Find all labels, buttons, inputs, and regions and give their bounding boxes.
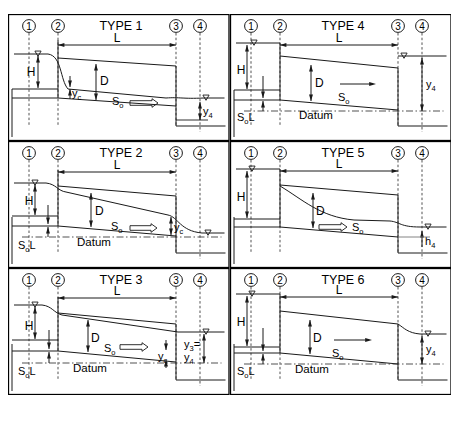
svg-text:H: H — [236, 63, 245, 77]
svg-text:1: 1 — [248, 148, 254, 159]
diagram-type-5: 1234TYPE 5HLDSoh4 — [230, 141, 452, 268]
svg-text:3: 3 — [395, 21, 401, 32]
svg-text:2: 2 — [277, 21, 283, 32]
panel-type-3: 1234TYPE 3HLDSoDatumSoLycy3=y4 — [8, 268, 230, 395]
svg-text:TYPE 2: TYPE 2 — [99, 146, 142, 160]
panel-type-5: 1234TYPE 5HLDSoh4 — [230, 141, 452, 268]
svg-text:4: 4 — [419, 21, 425, 32]
svg-text:D: D — [95, 204, 104, 218]
panel-type-4: 1234TYPE 4HLDSoDatumSoLy4 — [230, 14, 452, 141]
svg-text:2: 2 — [55, 21, 61, 32]
diagram-type-2: 1234TYPE 2HLDSoDatumSoLyc — [8, 141, 230, 268]
svg-text:3: 3 — [395, 275, 401, 286]
svg-text:1: 1 — [26, 21, 32, 32]
diagram-type-1: 1234TYPE 1HLDycSoy4 — [8, 14, 230, 141]
svg-text:TYPE 1: TYPE 1 — [99, 19, 142, 33]
svg-text:Datum: Datum — [77, 236, 111, 248]
svg-text:4: 4 — [197, 275, 203, 286]
svg-text:D: D — [313, 331, 322, 345]
svg-text:1: 1 — [248, 21, 254, 32]
diagram-type-3: 1234TYPE 3HLDSoDatumSoLycy3=y4 — [8, 268, 230, 395]
diagram-type-4: 1234TYPE 4HLDSoDatumSoLy4 — [230, 14, 452, 141]
panel-type-6: 1234TYPE 6HLDSoDatumSoLy4 — [230, 268, 452, 395]
svg-text:D: D — [316, 204, 325, 218]
svg-text:4: 4 — [197, 21, 203, 32]
svg-text:D: D — [100, 74, 109, 88]
svg-text:L: L — [335, 283, 342, 297]
svg-text:4: 4 — [419, 148, 425, 159]
svg-text:H: H — [236, 315, 245, 329]
svg-text:3: 3 — [173, 21, 179, 32]
svg-text:4: 4 — [419, 275, 425, 286]
svg-text:L: L — [114, 158, 121, 172]
svg-text:4: 4 — [197, 148, 203, 159]
panel-type-2: 1234TYPE 2HLDSoDatumSoLyc — [8, 141, 230, 268]
svg-text:TYPE 6: TYPE 6 — [321, 273, 364, 287]
diagram-type-6: 1234TYPE 6HLDSoDatumSoLy4 — [230, 268, 452, 395]
svg-text:2: 2 — [277, 275, 283, 286]
culvert-flow-types-figure: 1234TYPE 1HLDycSoy41234TYPE 4HLDSoDatumS… — [0, 0, 459, 422]
svg-text:H: H — [236, 190, 245, 204]
svg-text:H: H — [25, 194, 34, 208]
svg-text:L: L — [335, 31, 342, 45]
svg-text:3: 3 — [173, 275, 179, 286]
svg-text:H: H — [25, 319, 34, 333]
svg-text:3: 3 — [173, 148, 179, 159]
svg-text:3: 3 — [395, 148, 401, 159]
svg-text:1: 1 — [248, 275, 254, 286]
svg-text:D: D — [315, 76, 324, 90]
svg-text:1: 1 — [26, 275, 32, 286]
panel-grid: 1234TYPE 1HLDycSoy41234TYPE 4HLDSoDatumS… — [8, 14, 451, 395]
svg-text:L: L — [335, 157, 342, 171]
panel-type-1: 1234TYPE 1HLDycSoy4 — [8, 14, 230, 141]
svg-text:2: 2 — [277, 148, 283, 159]
svg-text:Datum: Datum — [295, 363, 329, 375]
svg-text:TYPE 3: TYPE 3 — [99, 273, 142, 287]
svg-text:TYPE 5: TYPE 5 — [321, 146, 364, 160]
svg-text:Datum: Datum — [299, 109, 333, 121]
svg-text:Datum: Datum — [73, 362, 107, 374]
svg-text:L: L — [114, 284, 121, 298]
svg-text:2: 2 — [55, 148, 61, 159]
svg-text:H: H — [27, 65, 36, 79]
svg-text:D: D — [91, 331, 100, 345]
svg-text:L: L — [114, 31, 121, 45]
svg-text:TYPE 4: TYPE 4 — [321, 19, 364, 33]
svg-text:2: 2 — [55, 275, 61, 286]
svg-text:1: 1 — [26, 148, 32, 159]
